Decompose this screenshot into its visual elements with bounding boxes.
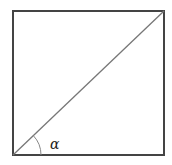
angle-arc (33, 136, 41, 155)
diagonal (13, 11, 164, 155)
geometry-diagram: α (0, 0, 172, 165)
angle-label: α (50, 136, 60, 152)
